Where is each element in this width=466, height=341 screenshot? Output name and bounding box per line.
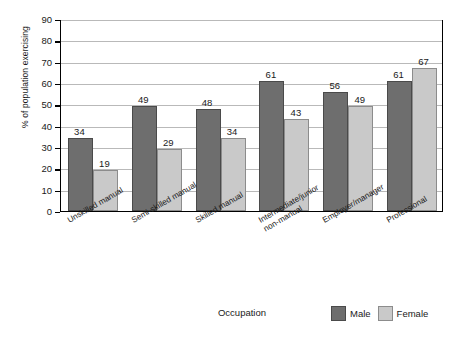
bar-value-male-2: 48	[191, 97, 224, 108]
y-tick-mark	[55, 212, 60, 213]
bar-value-female-3: 43	[279, 107, 312, 118]
bar-value-male-0: 34	[63, 126, 96, 137]
y-tick-label: 10	[26, 185, 52, 196]
y-tick-label: 90	[26, 14, 52, 25]
bar-value-male-1: 49	[127, 94, 160, 105]
bar-male-3	[259, 81, 284, 211]
legend-swatch-female-icon	[378, 306, 393, 321]
bar-value-female-1: 29	[152, 137, 185, 148]
bar-value-male-4: 56	[318, 80, 351, 91]
bar-chart: % of population exercising 9080706050403…	[0, 0, 466, 341]
legend-entry-female: Female	[378, 306, 429, 321]
bar-value-female-4: 49	[343, 94, 376, 105]
y-tick-label: 30	[26, 142, 52, 153]
bar-male-2	[196, 109, 221, 211]
bar-value-male-5: 61	[382, 69, 415, 80]
bar-value-male-3: 61	[254, 69, 287, 80]
bar-male-5	[387, 81, 412, 211]
y-tick-label: 60	[26, 78, 52, 89]
bar-value-female-5: 67	[407, 56, 440, 67]
y-tick-label: 0	[26, 206, 52, 217]
legend-entry-male: Male	[331, 306, 371, 321]
y-tick-label: 20	[26, 163, 52, 174]
y-tick-label: 70	[26, 57, 52, 68]
legend-swatch-male-icon	[331, 306, 346, 321]
legend: Male Female	[331, 306, 428, 321]
bar-female-5	[412, 68, 437, 211]
legend-label-female: Female	[397, 308, 429, 319]
bar-male-4	[323, 92, 348, 211]
bar-value-female-2: 34	[216, 126, 249, 137]
y-tick-label: 80	[26, 35, 52, 46]
x-axis-title: Occupation	[196, 307, 288, 318]
bar-male-0	[68, 138, 93, 211]
bar-male-1	[132, 106, 157, 211]
y-tick-label: 40	[26, 121, 52, 132]
plot-area	[60, 20, 443, 212]
bar-value-female-0: 19	[88, 158, 121, 169]
bars-layer	[61, 20, 442, 211]
legend-label-male: Male	[350, 308, 371, 319]
y-tick-label: 50	[26, 99, 52, 110]
